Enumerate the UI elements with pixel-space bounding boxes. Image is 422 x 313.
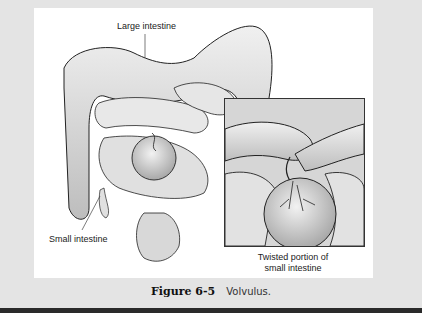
twisted-portion-label-line1: Twisted portion of xyxy=(248,252,338,262)
small-intestine-label: Small intestine xyxy=(49,234,108,244)
figure-number: Figure 6-5 xyxy=(151,285,215,298)
twisted-portion-label-line2: small intestine xyxy=(248,263,338,273)
figure-title: Volvulus. xyxy=(226,286,271,297)
figure-caption: Figure 6-5 Volvulus. xyxy=(0,285,422,298)
large-intestine-label: Large intestine xyxy=(117,21,176,31)
bottom-divider xyxy=(0,308,422,313)
twisted-loop-closeup xyxy=(225,99,364,246)
magnified-inset xyxy=(224,98,365,247)
figure-panel: Large intestine Small intestine Twisted … xyxy=(34,8,373,278)
